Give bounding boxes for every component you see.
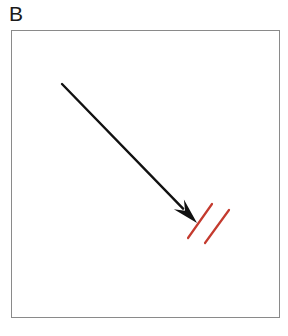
panel-border-box	[11, 30, 280, 318]
page-title: B	[9, 2, 24, 26]
figure-panel-b: B	[0, 0, 288, 336]
